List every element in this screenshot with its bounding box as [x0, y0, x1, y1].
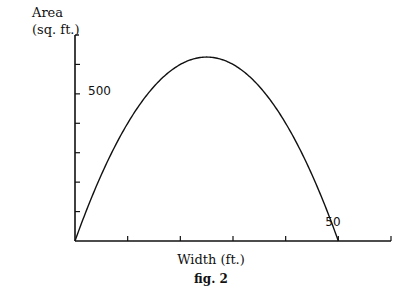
y-tick-label-500: 500 — [88, 84, 111, 98]
axes — [75, 35, 391, 241]
y-axis-label-line-2: (sq. ft.) — [32, 21, 80, 38]
y-axis-label: Area (sq. ft.) — [32, 4, 80, 38]
y-axis-label-line-1: Area — [32, 4, 80, 21]
x-tick-label-50: 50 — [325, 215, 340, 229]
figure-caption: fig. 2 — [0, 272, 408, 286]
axis-ticks — [75, 64, 391, 241]
area-curve — [75, 57, 338, 241]
x-axis-label: Width (ft.) — [0, 252, 408, 267]
